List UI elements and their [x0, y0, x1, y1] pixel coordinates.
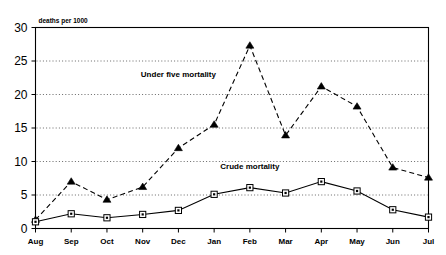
chart-canvas: 051015202530deaths per 1000AugSepOctNovD… [0, 0, 446, 255]
xtick-label-Apr: Apr [314, 237, 328, 246]
ytick-label-30: 30 [14, 21, 28, 35]
marker-dot-crude-mortality-Jan [213, 193, 215, 195]
marker-dot-crude-mortality-Sep [70, 213, 72, 215]
marker-dot-crude-mortality-May [356, 190, 358, 192]
marker-under-five-mortality-Feb [246, 42, 254, 48]
marker-dot-crude-mortality-Feb [249, 187, 251, 189]
xtick-label-Nov: Nov [135, 237, 151, 246]
series-annotation-under-five-mortality: Under five mortality [141, 70, 217, 79]
xtick-label-Mar: Mar [278, 237, 292, 246]
xtick-label-Aug: Aug [28, 237, 44, 246]
series-annotation-crude-mortality: Crude mortality [220, 162, 280, 171]
marker-dot-crude-mortality-Jul [427, 216, 429, 218]
marker-dot-crude-mortality-Apr [320, 181, 322, 183]
marker-under-five-mortality-Mar [282, 132, 290, 138]
marker-dot-crude-mortality-Dec [177, 209, 179, 211]
xtick-label-Dec: Dec [171, 237, 186, 246]
xtick-label-Feb: Feb [243, 237, 257, 246]
xtick-label-May: May [349, 237, 365, 246]
marker-under-five-mortality-Jan [210, 121, 218, 127]
ytick-label-25: 25 [14, 54, 28, 68]
series-line-under-five-mortality [36, 46, 429, 220]
marker-dot-crude-mortality-Oct [106, 217, 108, 219]
marker-under-five-mortality-Sep [67, 178, 75, 184]
y-axis-label: deaths per 1000 [39, 17, 89, 25]
ytick-label-5: 5 [21, 188, 28, 202]
marker-under-five-mortality-May [353, 103, 361, 109]
marker-dot-crude-mortality-Mar [284, 192, 286, 194]
xtick-label-Oct: Oct [100, 237, 114, 246]
marker-dot-crude-mortality-Aug [34, 221, 36, 223]
ytick-label-0: 0 [21, 222, 28, 236]
marker-under-five-mortality-Jun [389, 164, 397, 170]
marker-under-five-mortality-Apr [317, 83, 325, 89]
ytick-label-15: 15 [14, 121, 28, 135]
mortality-line-chart: 051015202530deaths per 1000AugSepOctNovD… [0, 0, 446, 255]
marker-under-five-mortality-Dec [174, 144, 182, 150]
xtick-label-Jan: Jan [207, 237, 221, 246]
ytick-label-10: 10 [14, 155, 28, 169]
xtick-label-Jun: Jun [386, 237, 400, 246]
series-line-crude-mortality [36, 182, 429, 222]
xtick-label-Jul: Jul [423, 237, 435, 246]
xtick-label-Sep: Sep [64, 237, 79, 246]
ytick-label-20: 20 [14, 88, 28, 102]
marker-dot-crude-mortality-Jun [392, 209, 394, 211]
marker-dot-crude-mortality-Nov [142, 213, 144, 215]
